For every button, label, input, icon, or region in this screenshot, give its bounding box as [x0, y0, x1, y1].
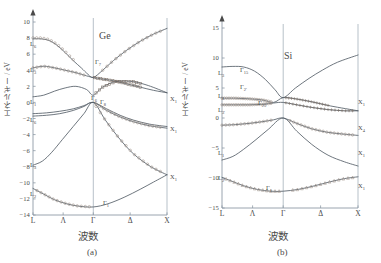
svg-text:5: 5 — [216, 84, 220, 91]
svg-text:L1: L1 — [218, 149, 224, 158]
svg-text:X: X — [164, 216, 170, 225]
band-curve — [222, 118, 358, 166]
svg-text:L: L — [31, 216, 36, 225]
data-marker — [284, 101, 287, 104]
svg-text:X1: X1 — [358, 98, 365, 107]
svg-text:−4: −4 — [23, 131, 31, 138]
data-marker — [334, 109, 337, 112]
svg-text:Γ2': Γ2' — [240, 83, 247, 92]
critical-point-label: Γ6 — [91, 94, 98, 103]
data-marker — [318, 102, 321, 105]
data-marker — [324, 103, 327, 106]
data-marker — [295, 103, 298, 106]
critical-point-label: L1 — [218, 92, 224, 101]
svg-text:X: X — [355, 209, 361, 218]
data-marker — [327, 108, 330, 111]
svg-text:Δ: Δ — [318, 209, 323, 218]
svg-text:−10: −10 — [19, 179, 30, 186]
svg-text:10: 10 — [23, 18, 30, 25]
data-marker — [330, 108, 333, 111]
data-marker — [344, 109, 347, 112]
svg-text:−6: −6 — [23, 147, 31, 154]
critical-point-label: Γ7 — [95, 58, 102, 67]
svg-text:Λ: Λ — [60, 216, 66, 225]
data-marker — [301, 99, 304, 102]
critical-point-label: L2 — [30, 190, 36, 199]
critical-point-label: L3' — [218, 106, 225, 115]
critical-point-label: L3 — [218, 69, 225, 78]
critical-point-label: X1 — [170, 95, 177, 104]
data-marker — [293, 97, 296, 100]
svg-text:6: 6 — [27, 50, 31, 57]
ge-band-structure-plot: 1086420−2−4−6−8−10−12−14LΛΓΔXL6L3L1L6L3L… — [0, 0, 190, 263]
svg-text:L2': L2' — [218, 174, 225, 183]
svg-text:−12: −12 — [19, 195, 29, 202]
data-marker — [319, 107, 322, 110]
svg-text:Γ1: Γ1 — [266, 184, 272, 193]
critical-point-label: L6 — [30, 40, 37, 49]
svg-text:Γ: Γ — [91, 216, 96, 225]
svg-text:Λ: Λ — [250, 209, 256, 218]
data-marker — [302, 104, 305, 107]
critical-point-label: Γ1 — [103, 199, 109, 208]
svg-text:−14: −14 — [19, 211, 30, 218]
y-axis-title-ge: エネルギー / eV — [2, 62, 13, 117]
figure-caption-b: (b) — [277, 247, 288, 257]
data-marker — [309, 106, 312, 109]
data-marker — [341, 109, 344, 112]
data-marker — [287, 97, 290, 100]
data-marker — [298, 104, 301, 107]
data-marker — [327, 104, 330, 107]
data-marker — [316, 107, 319, 110]
svg-text:−2: −2 — [23, 115, 30, 122]
svg-text:L1: L1 — [218, 92, 224, 101]
data-marker — [310, 100, 313, 103]
critical-point-label: X1 — [358, 149, 365, 158]
data-marker — [307, 100, 310, 103]
figure-caption-a: (a) — [87, 247, 97, 257]
data-marker — [337, 109, 340, 112]
critical-point-label: X1 — [358, 182, 365, 191]
data-marker — [305, 105, 308, 108]
svg-text:L3': L3' — [218, 106, 225, 115]
x-axis-title-ge: 波数 — [78, 228, 98, 243]
band-curve — [222, 118, 358, 136]
chart-panel-ge: 1086420−2−4−6−8−10−12−14LΛΓΔXL6L3L1L6L3L… — [0, 0, 190, 263]
svg-text:L1: L1 — [30, 98, 36, 107]
plot-title-ge: Ge — [99, 30, 111, 41]
svg-text:Γ6: Γ6 — [91, 94, 98, 103]
svg-text:Γ1: Γ1 — [103, 199, 109, 208]
data-marker — [313, 101, 316, 104]
svg-text:X1: X1 — [170, 125, 177, 134]
svg-text:L: L — [220, 209, 225, 218]
svg-text:10: 10 — [212, 54, 219, 61]
critical-point-label: L1 — [30, 98, 36, 107]
svg-text:Γ: Γ — [281, 209, 286, 218]
si-band-structure-plot: 151050−5−10−15LΛΓΔXΓ15Γ2'Γ25'Γ1L3L1L3'L1… — [190, 0, 381, 263]
svg-text:X1: X1 — [358, 149, 365, 158]
band-curve — [33, 102, 167, 128]
svg-text:2: 2 — [27, 83, 30, 90]
x-axis-title-si: 波数 — [268, 228, 288, 243]
band-curve — [33, 175, 167, 207]
critical-point-label: X1 — [170, 173, 177, 182]
svg-text:15: 15 — [212, 24, 219, 31]
svg-text:L3: L3 — [218, 69, 225, 78]
critical-point-label: L2' — [218, 174, 225, 183]
critical-point-label: X1 — [170, 125, 177, 134]
data-marker — [291, 103, 294, 106]
band-curve — [222, 55, 358, 98]
svg-text:L2: L2 — [30, 190, 36, 199]
band-curve — [33, 102, 167, 174]
critical-point-label: L3 — [30, 161, 37, 170]
critical-point-label: X4 — [358, 124, 366, 133]
critical-point-label: Γ1 — [266, 184, 272, 193]
svg-text:−15: −15 — [208, 204, 219, 211]
y-axis-title-si: エネルギー / eV — [180, 62, 191, 117]
data-marker — [312, 106, 315, 109]
chart-panel-si: 151050−5−10−15LΛΓΔXΓ15Γ2'Γ25'Γ1L3L1L3'L1… — [190, 0, 380, 263]
plot-title-si: Si — [284, 50, 292, 61]
svg-text:L6: L6 — [30, 116, 37, 125]
data-marker — [290, 97, 293, 100]
svg-text:X4: X4 — [358, 124, 366, 133]
